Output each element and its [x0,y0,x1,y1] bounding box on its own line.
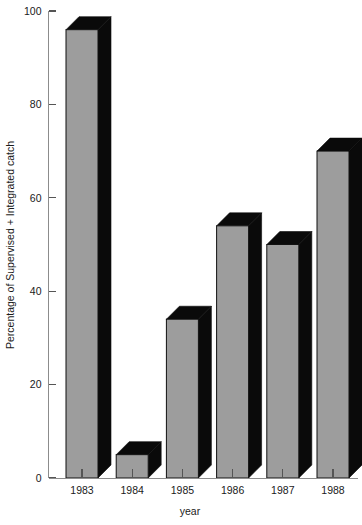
bar-front-face [166,319,198,478]
x-tick-label: 1984 [121,484,145,496]
bar-group [166,306,211,478]
y-tick-label: 40 [30,285,42,297]
bar-group [66,17,111,478]
x-tick-label: 1988 [321,484,345,496]
bar-side-face [98,17,111,478]
x-tick-label: 1983 [70,484,94,496]
bar-series [66,17,362,478]
y-axis-ticks: 020406080100 [24,5,56,484]
chart-canvas: 020406080100 198319841985198619871988 ye… [0,0,362,525]
bar-group [217,213,262,478]
y-tick-label: 80 [30,98,42,110]
bar-group [267,232,312,479]
bar-side-face [349,138,362,478]
x-tick-label: 1986 [221,484,245,496]
y-tick-label: 20 [30,378,42,390]
bar-front-face [317,151,349,478]
y-tick-label: 0 [36,472,42,484]
y-axis-title: Percentage of Supervised + Integrated ca… [4,141,16,349]
y-tick-label: 100 [24,5,42,17]
x-axis-title: year [180,505,201,517]
bar-side-face [198,306,211,478]
bar-front-face [217,226,249,478]
bar-front-face [267,245,299,479]
bar-side-face [249,213,262,478]
x-tick-label: 1985 [171,484,195,496]
bar-chart: 020406080100 198319841985198619871988 ye… [0,0,362,525]
y-tick-label: 60 [30,192,42,204]
bar-group [317,138,362,478]
bar-group [116,442,161,478]
bar-front-face [66,30,98,478]
x-tick-label: 1987 [271,484,295,496]
bar-side-face [299,232,312,479]
